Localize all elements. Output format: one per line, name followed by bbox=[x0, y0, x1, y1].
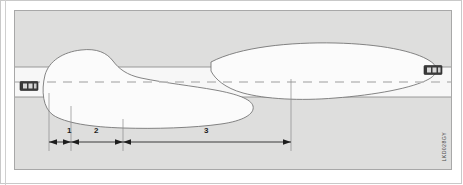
dimension-label-2: 2 bbox=[94, 127, 98, 135]
dimension-lines bbox=[49, 139, 291, 145]
figure-root: 1 2 3 LKD028GY bbox=[0, 0, 463, 185]
diagram-canvas bbox=[15, 11, 451, 169]
dimension-label-1: 1 bbox=[67, 127, 71, 135]
figure-id-code: LKD028GY bbox=[441, 132, 447, 161]
vehicle-left bbox=[20, 82, 38, 91]
dimension-label-3: 3 bbox=[204, 127, 208, 135]
illustration-panel: 1 2 3 LKD028GY bbox=[14, 10, 452, 170]
page-rule-left bbox=[5, 0, 6, 185]
vehicle-right bbox=[424, 66, 442, 75]
